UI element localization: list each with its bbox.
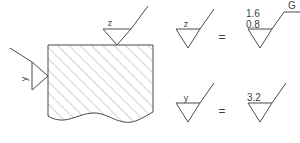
surface-symbol-leader — [272, 12, 284, 29]
eq-z-right-symbol[interactable]: G 1.6 0.8 — [246, 0, 300, 48]
callout-z-top[interactable]: z — [103, 6, 148, 45]
section-hatching — [48, 45, 153, 122]
surface-symbol-leader — [10, 48, 32, 62]
eq-z-left-label: z — [184, 19, 189, 29]
eq-z-process-label: G — [288, 0, 296, 11]
eq-z-operator: = — [218, 30, 225, 44]
eq-z-lower-value: 0.8 — [246, 19, 260, 30]
eq-y-left-symbol[interactable]: y — [176, 83, 214, 122]
equation-y: y = 3.2 — [176, 83, 286, 122]
surface-symbol-leader — [272, 83, 286, 103]
surface-symbol-leader — [200, 83, 214, 103]
eq-y-left-label: y — [184, 93, 189, 103]
surface-symbol-triangle — [32, 62, 48, 90]
drawing-canvas: z y z = — [0, 0, 300, 143]
surface-symbol-triangle — [248, 29, 272, 48]
surface-symbol-leader — [131, 6, 148, 29]
workpiece-section — [48, 45, 153, 122]
callout-z-label: z — [108, 18, 113, 28]
eq-y-operator: = — [218, 104, 225, 118]
eq-y-upper-value: 3.2 — [247, 92, 261, 103]
surface-symbol-triangle — [176, 103, 200, 122]
eq-z-upper-value: 1.6 — [246, 8, 260, 19]
equation-z: z = G 1.6 0.8 — [176, 0, 300, 48]
surface-symbol-triangle — [176, 29, 200, 48]
surface-symbol-triangle — [103, 29, 131, 45]
surface-symbol-triangle — [248, 103, 272, 122]
engineering-drawing: z y z = — [0, 0, 300, 143]
eq-y-right-symbol[interactable]: 3.2 — [247, 83, 286, 122]
callout-y-label: y — [19, 76, 29, 81]
surface-symbol-leader — [200, 9, 214, 29]
callout-y-left[interactable]: y — [10, 48, 48, 90]
eq-z-left-symbol[interactable]: z — [176, 9, 214, 48]
